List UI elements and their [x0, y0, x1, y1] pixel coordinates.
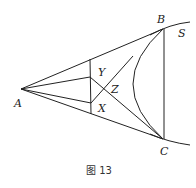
- line-A-upper: [21, 77, 90, 89]
- line-AB: [21, 29, 163, 89]
- label-B: B: [156, 13, 165, 26]
- geometry-diagram: A B S C Y Z X 图 13: [0, 0, 196, 188]
- curve-lower: [150, 134, 190, 145]
- label-C: C: [160, 145, 169, 158]
- label-A: A: [13, 97, 22, 110]
- label-Z: Z: [110, 83, 119, 96]
- figure-caption: 图 13: [86, 165, 112, 176]
- label-X: X: [97, 102, 107, 115]
- arc-BC: [133, 29, 163, 139]
- label-Y: Y: [98, 66, 107, 79]
- label-S: S: [178, 27, 186, 40]
- segment-vertical: [90, 59, 91, 114]
